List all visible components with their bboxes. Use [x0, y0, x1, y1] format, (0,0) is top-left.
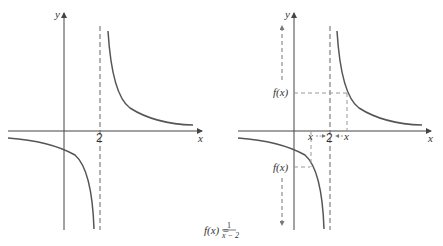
left-x-label: x: [197, 132, 203, 144]
right-upper-branch: [337, 31, 422, 125]
left-lower-branch: [8, 138, 94, 229]
right-lower-branch: [238, 138, 324, 229]
right-asymptote-label: 2: [326, 131, 333, 145]
function-numerator: 1: [227, 221, 231, 230]
left-asymptote-label: 2: [96, 131, 103, 145]
left-graph: y x 2: [8, 8, 203, 230]
right-x-label: x: [427, 132, 433, 144]
lower-fx-label: f(x): [273, 161, 289, 174]
right-y-label: y: [284, 8, 290, 20]
left-upper-branch: [108, 31, 193, 125]
function-formula: f(x) = 1 x − 2: [204, 221, 239, 240]
function-denominator: x − 2: [221, 231, 239, 240]
left-y-label: y: [54, 8, 60, 20]
right-x-value-label: x: [343, 130, 349, 142]
left-x-value-label: x: [307, 130, 313, 142]
right-graph: y x 2 x x f(x) f(x): [238, 8, 433, 230]
upper-fx-label: f(x): [273, 86, 289, 99]
